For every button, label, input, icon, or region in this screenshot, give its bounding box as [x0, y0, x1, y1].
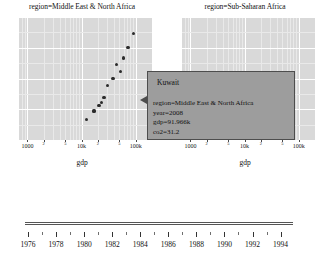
slider-major-tick [140, 232, 141, 237]
slider-year-label[interactable]: 1988 [189, 240, 204, 250]
slider-major-tick [112, 232, 113, 237]
slider-minor-tick [267, 232, 268, 235]
slider-minor-tick [126, 232, 127, 235]
gridline-major-horizontal [182, 48, 315, 49]
faceted-scatter-chart: region=Middle East & North Africa 100025… [0, 0, 317, 195]
gridline-major-horizontal [19, 109, 152, 110]
tooltip-row: year=2008 [153, 109, 291, 119]
slider-major-tick [253, 232, 254, 237]
slider-minor-tick [154, 232, 155, 235]
x-axis-tick-label: 5 [227, 142, 229, 150]
slider-major-tick [28, 232, 29, 237]
data-point[interactable] [126, 46, 129, 49]
data-point[interactable] [106, 84, 109, 87]
tooltip-body: region=Middle East & North Africayear=20… [153, 99, 291, 137]
slider-minor-tick [42, 232, 43, 235]
gridline-minor-horizontal [19, 94, 152, 95]
slider-year-label[interactable]: 1980 [77, 240, 92, 250]
data-point[interactable] [102, 96, 105, 99]
slider-major-tick [84, 232, 85, 237]
slider-minor-tick [70, 232, 71, 235]
slider-major-tick [224, 232, 225, 237]
slider-major-tick [56, 232, 57, 237]
slider-minor-tick [210, 232, 211, 235]
data-point[interactable] [119, 70, 122, 73]
x-axis-right: 10002510k25100k [182, 140, 315, 160]
facet-title-right: region=Sub-Saharan Africa [171, 2, 317, 12]
tooltip-title: Kuwait [157, 78, 179, 88]
facet-title-left: region=Middle East & North Africa [8, 2, 156, 12]
gridline-major-horizontal [182, 17, 315, 18]
x-axis-tick-label: 2 [260, 142, 262, 150]
tooltip-row: gdp=91.966k [153, 118, 291, 128]
facet-middle-east-north-africa: region=Middle East & North Africa 100025… [8, 0, 156, 195]
data-point[interactable] [115, 63, 118, 66]
slider-major-tick [168, 232, 169, 237]
gridline-minor-horizontal [182, 63, 315, 64]
data-point[interactable] [85, 118, 88, 121]
slider-year-label[interactable]: 1984 [133, 240, 148, 250]
x-axis-tick-label: 100k [293, 142, 305, 150]
x-axis-tick-label: 100k [130, 142, 142, 150]
gridline-minor-horizontal [19, 63, 152, 64]
x-axis-tick-label: 1000 [21, 142, 33, 150]
data-point[interactable] [97, 104, 100, 107]
x-axis-tick-label: 2 [97, 142, 99, 150]
slider-year-label[interactable]: 1992 [245, 240, 260, 250]
year-slider[interactable]: 1976197819801982198419861988199019921994 [0, 196, 317, 265]
data-point[interactable] [100, 101, 103, 104]
slider-major-tick [281, 232, 282, 237]
x-axis-label-right: gdp [171, 158, 317, 168]
x-axis-tick-label: 2 [206, 142, 208, 150]
tooltip-row: region=Middle East & North Africa [153, 99, 291, 109]
slider-tick-axis: 1976197819801982198419861988199019921994 [25, 232, 293, 262]
data-point[interactable] [111, 77, 114, 80]
gridline-major-horizontal [19, 48, 152, 49]
tooltip-pointer-icon [140, 96, 147, 104]
x-axis-tick-label: 10k [77, 142, 86, 150]
plot-panel-left[interactable] [19, 17, 152, 140]
slider-year-label[interactable]: 1990 [217, 240, 232, 250]
x-axis-tick-label: 5 [281, 142, 283, 150]
gridline-minor-horizontal [19, 125, 152, 126]
slider-year-label[interactable]: 1986 [161, 240, 176, 250]
x-axis-tick-label: 5 [64, 142, 66, 150]
slider-minor-tick [98, 232, 99, 235]
x-axis-tick-label: 5 [118, 142, 120, 150]
gridline-major-horizontal [19, 79, 152, 80]
slider-track[interactable] [25, 222, 293, 225]
tooltip-row: co2=31.2 [153, 128, 291, 138]
gridline-minor-horizontal [182, 32, 315, 33]
data-point-tooltip: Kuwait region=Middle East & North Africa… [147, 71, 295, 140]
x-axis-label-left: gdp [8, 158, 156, 168]
data-point[interactable] [92, 109, 95, 112]
slider-year-label[interactable]: 1994 [273, 240, 288, 250]
slider-year-label[interactable]: 1976 [21, 240, 36, 250]
x-axis-left: 10002510k25100k [19, 140, 152, 160]
x-axis-tick-label: 2 [43, 142, 45, 150]
slider-minor-tick [238, 232, 239, 235]
x-axis-tick-label: 1000 [184, 142, 196, 150]
slider-year-label[interactable]: 1978 [49, 240, 64, 250]
chart-app: region=Middle East & North Africa 100025… [0, 0, 317, 265]
gridline-major-horizontal [19, 17, 152, 18]
slider-minor-tick [182, 232, 183, 235]
slider-major-tick [196, 232, 197, 237]
data-point[interactable] [122, 56, 125, 59]
x-axis-tick-label: 10k [240, 142, 249, 150]
slider-year-label[interactable]: 1982 [105, 240, 120, 250]
